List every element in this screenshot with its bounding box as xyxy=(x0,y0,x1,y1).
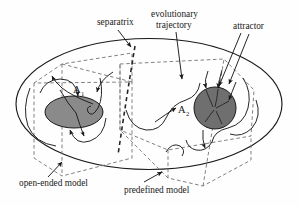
trajectories-basin-a2 xyxy=(126,70,258,156)
attractor-a2-label: A xyxy=(178,104,186,115)
label-attractor: attractor xyxy=(233,21,265,31)
attractor-a2-subscript: 2 xyxy=(186,110,189,117)
attractor-a1-subscript: 1 xyxy=(81,90,84,97)
label-evolutionary-trajectory-line1: evolutionary xyxy=(151,9,198,19)
phase-space-diagram: separatrix evolutionary trajectory attra… xyxy=(0,0,299,206)
leader-separatrix xyxy=(118,30,131,47)
label-open-ended-model: open-ended model xyxy=(19,178,88,188)
label-predefined-model: predefined model xyxy=(124,185,190,195)
attractor-a1 xyxy=(45,96,103,128)
figure-canvas: separatrix evolutionary trajectory attra… xyxy=(0,0,299,206)
leader-predefined-model xyxy=(144,172,162,182)
label-evolutionary-trajectory-line2: trajectory xyxy=(156,20,192,30)
label-separatrix: separatrix xyxy=(97,17,134,27)
leader-evolutionary-trajectory xyxy=(176,32,182,79)
attractor-a1-label: A xyxy=(73,84,81,95)
attractor-a2 xyxy=(194,87,236,129)
